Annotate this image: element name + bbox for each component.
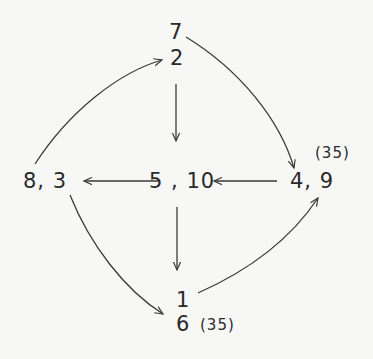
node-right-annotation: (35) bbox=[315, 146, 350, 161]
node-top-upper-label: 7 bbox=[169, 22, 183, 43]
node-bottom-annotation: (35) bbox=[200, 318, 235, 333]
edge-left-to-bottom bbox=[70, 195, 163, 314]
node-right-label: 4, 9 bbox=[290, 171, 334, 192]
edge-left-to-top bbox=[35, 60, 162, 164]
node-bottom-lower-label: 6 bbox=[176, 314, 190, 335]
edge-top-to-right bbox=[186, 37, 294, 168]
edge-bottom-to-right bbox=[198, 198, 318, 293]
node-center-label: 5 , 10 bbox=[149, 171, 215, 192]
node-top-lower-label: 2 bbox=[170, 48, 184, 69]
node-left-label: 8, 3 bbox=[23, 171, 67, 192]
node-bottom-upper-label: 1 bbox=[176, 290, 190, 311]
